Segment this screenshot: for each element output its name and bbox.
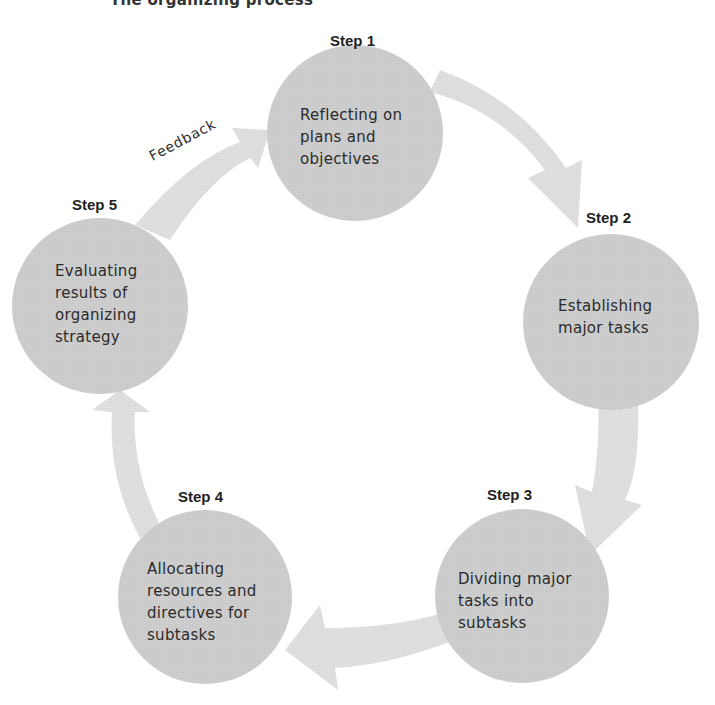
step1-text: Reflecting on plans and objectives [300,104,402,170]
step3-text: Dividing major tasks into subtasks [458,568,572,634]
arrow-step1-to-step2 [430,70,582,228]
arrow-step3-to-step4 [285,605,455,690]
step1-label: Step 1 [330,32,375,49]
step3-label: Step 3 [487,486,532,503]
step5-label: Step 5 [72,196,117,213]
arrow-step4-to-step5 [92,390,160,538]
arrow-step2-to-step3 [575,402,642,555]
step2-label: Step 2 [586,209,631,226]
step4-label: Step 4 [178,488,223,505]
step5-text: Evaluating results of organizing strateg… [55,260,138,348]
step4-text: Allocating resources and directives for … [147,558,257,646]
step2-text: Establishing major tasks [558,295,652,339]
